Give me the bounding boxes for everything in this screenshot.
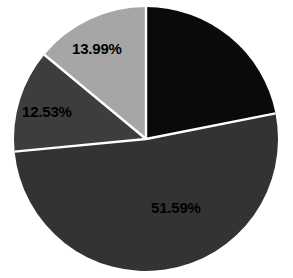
pie-chart: 13.99% 12.53% 51.59% [0, 0, 293, 278]
pie-slice-label-3: 12.53% [22, 104, 72, 119]
pie-slice-label-2: 51.59% [151, 200, 201, 215]
pie-chart-canvas [0, 0, 293, 278]
pie-slice-label-4: 13.99% [72, 41, 122, 56]
